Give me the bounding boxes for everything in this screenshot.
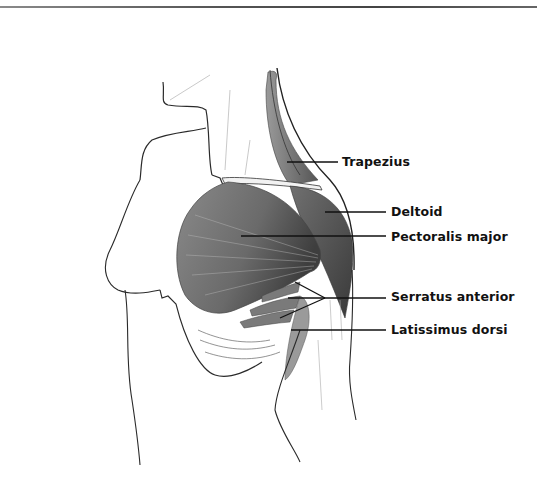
leader-serratus-1 bbox=[295, 282, 325, 298]
label-serratus-anterior: Serratus anterior bbox=[391, 290, 515, 304]
label-deltoid: Deltoid bbox=[391, 205, 443, 219]
label-pectoralis-major: Pectoralis major bbox=[391, 230, 508, 244]
anatomy-illustration bbox=[0, 0, 537, 492]
label-latissimus-dorsi: Latissimus dorsi bbox=[391, 323, 508, 337]
trapezius-muscle bbox=[266, 71, 318, 185]
label-trapezius: Trapezius bbox=[342, 155, 410, 169]
neck-outline bbox=[140, 82, 223, 185]
